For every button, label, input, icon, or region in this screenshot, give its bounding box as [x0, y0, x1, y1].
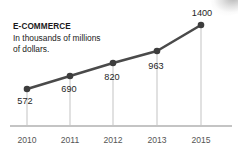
data-point-2010 — [24, 86, 31, 93]
data-value-labels: 5726908209631400 — [17, 8, 212, 106]
value-label-2010: 572 — [17, 96, 32, 106]
line-chart-plot: 5726908209631400 20102011201220132015 — [0, 0, 238, 162]
value-label-2013: 963 — [148, 61, 163, 71]
value-label-2012: 820 — [104, 72, 119, 82]
data-point-2012 — [110, 60, 117, 67]
x-axis-label-2010: 2010 — [17, 135, 36, 145]
value-label-2015: 1400 — [192, 8, 212, 18]
value-label-2011: 690 — [61, 84, 76, 94]
x-axis-label-2013: 2013 — [147, 135, 166, 145]
chart-container: E-COMMERCE In thousands of millions of d… — [0, 0, 238, 162]
x-axis-label-2012: 2012 — [103, 135, 122, 145]
x-axis-label-2015: 2015 — [191, 135, 210, 145]
x-axis-tick-labels: 20102011201220132015 — [17, 135, 210, 145]
data-point-2011 — [67, 73, 74, 80]
x-axis-label-2011: 2011 — [61, 135, 80, 145]
data-point-2015 — [198, 22, 205, 29]
data-point-2013 — [154, 48, 161, 55]
